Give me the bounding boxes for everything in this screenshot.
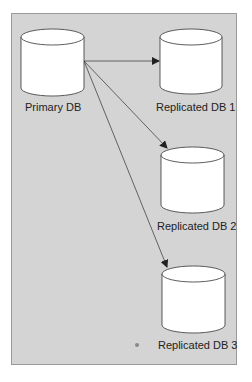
database-cylinder-icon: [161, 147, 224, 213]
database-cylinder-icon: [162, 266, 225, 333]
replication-diagram: [0, 0, 252, 382]
edge-primary-replica2: [84, 61, 167, 148]
node-label-replica2: Replicated DB 2: [157, 220, 237, 232]
database-cylinder-icon: [160, 29, 222, 94]
replication-edges: [84, 61, 167, 267]
dot-mark: [135, 343, 139, 347]
node-label-replica3: Replicated DB 3: [158, 339, 238, 351]
node-label-replica1: Replicated DB 1: [156, 101, 236, 113]
node-label-primary: Primary DB: [25, 101, 81, 113]
database-cylinder-icon: [21, 29, 84, 96]
edge-primary-replica3: [84, 61, 167, 267]
